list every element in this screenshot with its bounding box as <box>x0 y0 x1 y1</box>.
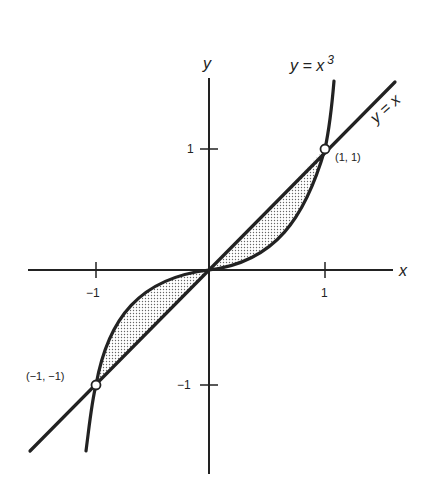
y-axis-label: y <box>202 55 212 72</box>
point-label-lower: (−1, −1) <box>26 370 65 382</box>
line-label: y = x <box>366 90 404 127</box>
graph-figure: y x 1 −1 1 −1 (1, 1) (−1, −1) y = x3 y =… <box>0 0 432 504</box>
point-neg1-neg1 <box>92 381 101 390</box>
tick-label-y-pos: 1 <box>187 142 194 156</box>
tick-label-x-neg: −1 <box>86 286 100 300</box>
tick-label-y-neg: −1 <box>177 378 191 392</box>
tick-label-x-pos: 1 <box>321 286 328 300</box>
x-axis-label: x <box>398 262 408 279</box>
cubic-curve-label: y = x3 <box>289 53 334 74</box>
point-1-1 <box>321 145 330 154</box>
line-y-equals-x <box>30 82 395 451</box>
point-label-upper: (1, 1) <box>335 151 361 163</box>
